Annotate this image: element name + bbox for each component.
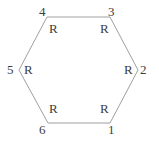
hexagon-ring-outline <box>19 17 138 123</box>
substituent-label-position-3: R <box>100 22 109 35</box>
substituent-label-position-2: R <box>124 63 133 76</box>
ring-position-number-3: 3 <box>108 5 115 18</box>
ring-position-number-6: 6 <box>39 123 46 136</box>
substituent-label-position-1: R <box>100 102 109 115</box>
substituent-label-position-5: R <box>24 63 33 76</box>
substituent-label-position-4: R <box>49 22 58 35</box>
substituent-label-position-6: R <box>49 102 58 115</box>
ring-position-number-5: 5 <box>7 63 14 76</box>
ring-position-number-2: 2 <box>140 63 147 76</box>
ring-position-number-1: 1 <box>108 123 115 136</box>
hexagon-ring-diagram: R R R R R R 4 3 2 1 6 5 <box>0 0 159 142</box>
ring-position-number-4: 4 <box>39 5 46 18</box>
